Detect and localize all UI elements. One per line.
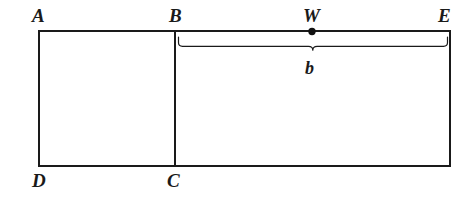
outer-rectangle: [39, 31, 450, 166]
geometry-figure: A B W E D C b: [0, 0, 476, 204]
vertex-label-e: E: [438, 6, 451, 25]
vertex-label-d: D: [32, 171, 46, 190]
vertex-label-w: W: [303, 6, 320, 25]
vertex-label-c: C: [167, 171, 180, 190]
brace-be: [179, 37, 448, 50]
figure-canvas: [0, 0, 476, 204]
point-w-dot: [308, 28, 315, 35]
vertex-label-b: B: [169, 6, 182, 25]
vertex-label-a: A: [32, 6, 45, 25]
brace-measure-label-b: b: [305, 59, 314, 77]
